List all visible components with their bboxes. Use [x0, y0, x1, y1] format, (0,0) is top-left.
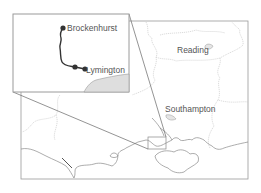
- map-canvas: [0, 0, 261, 193]
- label-lymington: Lymington: [86, 66, 125, 75]
- label-brockenhurst: Brockenhurst: [67, 24, 117, 33]
- station-dot-brockenhurst: [60, 25, 65, 30]
- label-southampton: Southampton: [165, 105, 216, 114]
- station-dot-intermediate: [72, 64, 77, 69]
- label-reading: Reading: [177, 46, 209, 55]
